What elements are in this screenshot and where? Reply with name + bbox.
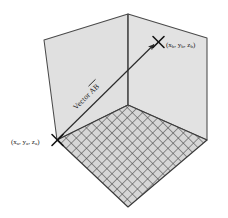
point-a-close: ) [37, 138, 40, 146]
point-a-label: (xa, ya, za) [11, 138, 40, 146]
point-a-sep2: , z [28, 138, 35, 146]
vector-diagram: (xb, yb, zb) (xa, ya, za) Vector AB [0, 0, 228, 218]
point-b-sep2: , z [184, 41, 191, 49]
scene-svg: (xb, yb, zb) (xa, ya, za) Vector AB [0, 0, 228, 218]
